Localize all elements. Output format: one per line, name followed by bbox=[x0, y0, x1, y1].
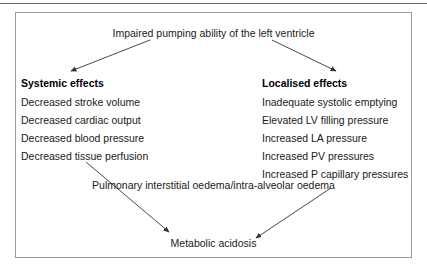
localised-effects-heading: Localised effects bbox=[262, 74, 408, 92]
node-pulmonary-oedema: Pulmonary interstitial oedema/intra-alve… bbox=[0, 176, 427, 194]
list-item: Inadequate systolic emptying bbox=[262, 93, 408, 111]
pulmonary-oedema-text: Pulmonary interstitial oedema/intra-alve… bbox=[92, 179, 335, 191]
list-item: Decreased tissue perfusion bbox=[21, 147, 148, 165]
list-item: Increased PV pressures bbox=[262, 147, 408, 165]
list-item: Decreased stroke volume bbox=[21, 93, 148, 111]
top-divider-rule bbox=[0, 3, 427, 4]
flowchart-figure: Impaired pumping ability of the left ven… bbox=[0, 0, 427, 269]
node-title: Impaired pumping ability of the left ven… bbox=[0, 24, 427, 42]
list-item: Elevated LV filling pressure bbox=[262, 111, 408, 129]
list-item: Decreased blood pressure bbox=[21, 129, 148, 147]
node-metabolic-acidosis: Metabolic acidosis bbox=[0, 234, 427, 252]
metabolic-acidosis-text: Metabolic acidosis bbox=[171, 237, 257, 249]
systemic-effects-heading: Systemic effects bbox=[21, 74, 148, 92]
title-text: Impaired pumping ability of the left ven… bbox=[113, 27, 315, 39]
list-item: Increased LA pressure bbox=[262, 129, 408, 147]
column-localised-effects: Localised effects Inadequate systolic em… bbox=[262, 74, 408, 183]
list-item: Decreased cardiac output bbox=[21, 111, 148, 129]
column-systemic-effects: Systemic effects Decreased stroke volume… bbox=[21, 74, 148, 165]
